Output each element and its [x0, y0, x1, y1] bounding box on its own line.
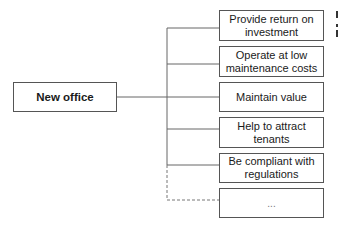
- child-node-label: Be compliant withregulations: [228, 155, 314, 181]
- child-node-label: Provide return oninvestment: [229, 13, 313, 39]
- child-node-attract-tenants: Help to attracttenants: [219, 117, 324, 148]
- child-node-ellipsis: ...: [219, 188, 324, 218]
- child-node-return-on-investment: Provide return oninvestment: [219, 10, 324, 41]
- cropped-text-fragment: [336, 24, 338, 27]
- child-node-label: Help to attracttenants: [237, 120, 305, 146]
- cropped-text-fragment: [336, 11, 338, 18]
- child-node-label: Operate at lowmaintenance costs: [226, 49, 318, 75]
- child-node-maintain-value: Maintain value: [219, 82, 324, 112]
- child-node-label: Maintain value: [236, 91, 307, 104]
- cropped-text-fragment: [336, 30, 338, 37]
- child-node-label: ...: [267, 197, 275, 210]
- child-node-compliant-regulations: Be compliant withregulations: [219, 153, 324, 183]
- root-node-new-office: New office: [13, 82, 117, 112]
- root-node-label: New office: [36, 91, 94, 104]
- child-node-low-maintenance: Operate at lowmaintenance costs: [219, 46, 324, 77]
